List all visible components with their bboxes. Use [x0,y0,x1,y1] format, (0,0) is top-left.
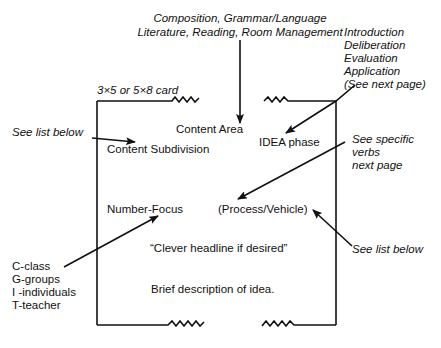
card-bottom-right-edge [262,321,336,326]
content-area-options-line2: Literature, Reading, Room Management [105,26,375,39]
number-focus-key-item: T-teacher [12,299,76,312]
arrow-to-idea-phase [286,85,355,133]
see-specific-verbs-line: verbs [352,146,414,159]
see-specific-verbs-line: See specific [352,133,414,146]
idea-phase-field: IDEA phase [259,136,320,149]
arrow-to-process-vehicle [238,142,345,199]
card-top-left-edge [97,97,199,102]
process-vehicle-field: (Process/Vehicle) [218,203,307,216]
content-area-options-line1: Composition, Grammar/Language [125,12,355,25]
idea-phase-item: Introduction [344,26,426,39]
headline-field: “Clever headline if desired” [150,242,287,255]
idea-phase-item: Deliberation [344,39,426,52]
idea-phase-item: Application [344,65,426,78]
arrow-to-number-focus [64,216,158,267]
card-bottom-left-edge [97,321,204,326]
arrow-right-to-process-vehicle [313,210,352,246]
number-focus-key: C-class G-groups I -individuals T-teache… [12,260,76,312]
idea-phases-list: Introduction Deliberation Evaluation App… [344,26,426,91]
arrow-to-content-subdivision [92,138,135,142]
content-subdivision-field: Content Subdivision [107,143,209,156]
card-top-right-edge [264,97,336,102]
description-field: Brief description of idea. [151,283,274,296]
number-focus-field: Number-Focus [107,203,183,216]
content-area-field: Content Area [176,123,243,136]
number-focus-key-item: G-groups [12,273,76,286]
idea-phase-item: (See next page) [344,78,426,91]
number-focus-key-item: I -individuals [12,286,76,299]
see-list-below-left: See list below [12,126,83,139]
see-specific-verbs-line: next page [352,159,414,172]
number-focus-key-item: C-class [12,260,76,273]
see-list-below-right: See list below [352,243,423,256]
idea-phase-item: Evaluation [344,52,426,65]
see-specific-verbs: See specific verbs next page [352,133,414,172]
card-size-label: 3×5 or 5×8 card [97,84,178,97]
